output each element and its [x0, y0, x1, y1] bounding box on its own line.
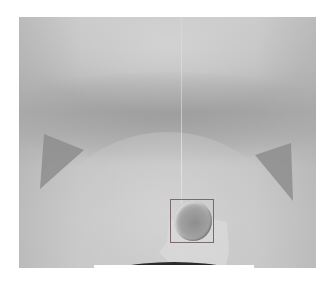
left-triangular-shadow	[40, 134, 84, 189]
scan-image-frame	[19, 17, 316, 268]
image-canvas	[0, 0, 333, 289]
right-triangular-shadow	[255, 143, 295, 201]
bounding-box-annotation	[170, 199, 214, 243]
bottom-arc-cutoff	[94, 265, 254, 268]
